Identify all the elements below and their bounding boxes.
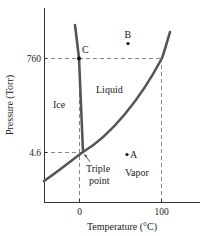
region-vapor-label: Vapor — [125, 167, 150, 178]
point-c-marker — [77, 57, 81, 61]
region-ice-label: Ice — [53, 99, 66, 110]
xtick-100-label: 100 — [154, 207, 169, 217]
ytick-4-6-label: 4.6 — [29, 148, 41, 158]
region-liquid-label: Liquid — [96, 84, 123, 95]
point-a-marker — [125, 153, 128, 156]
phase-diagram: C B A Ice Liquid Vapor Triple point 760 … — [0, 0, 202, 236]
point-c-label: C — [82, 44, 89, 55]
triple-point-label-line1: Triple — [86, 163, 111, 174]
x-axis-title: Temperature (°C) — [87, 221, 157, 233]
xtick-0-label: 0 — [77, 207, 82, 217]
triple-point-label-line2: point — [89, 175, 110, 186]
point-a-label: A — [130, 149, 138, 160]
y-axis-title: Pressure (Torr) — [4, 75, 16, 135]
point-b-label: B — [125, 29, 132, 40]
point-b-marker — [126, 42, 129, 45]
ytick-760-label: 760 — [27, 54, 42, 64]
